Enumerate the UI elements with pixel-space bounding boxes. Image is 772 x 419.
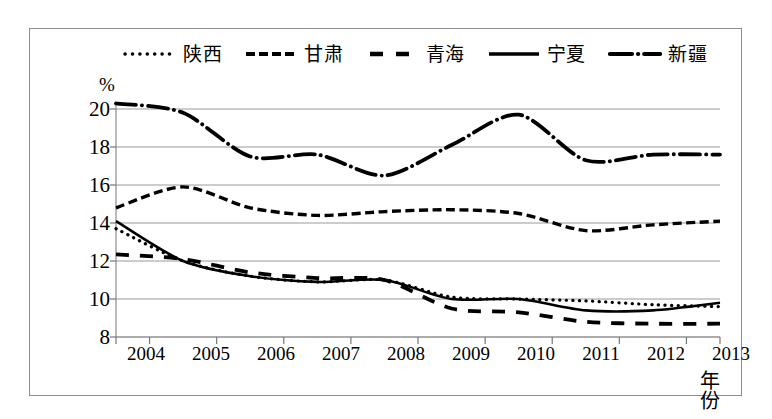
axis-ticks (110, 109, 720, 344)
series-line-新疆 (116, 103, 720, 175)
gridlines (116, 109, 720, 337)
plot-svg (30, 29, 743, 397)
plot-area (30, 29, 743, 397)
series-lines (116, 103, 720, 324)
axis-lines (116, 103, 720, 337)
chart-frame: 陕西 甘肃 青海 宁夏 (29, 28, 742, 396)
chart-figure: 陕西 甘肃 青海 宁夏 (0, 0, 772, 419)
series-line-甘肃 (116, 187, 720, 231)
